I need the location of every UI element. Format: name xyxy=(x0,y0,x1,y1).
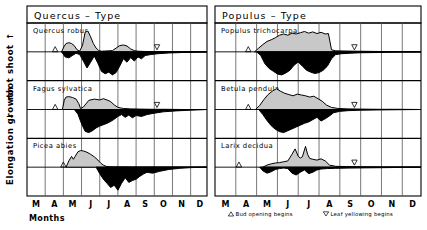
panel-populus-type: Populus – TypePopulus trichocarpaBetula … xyxy=(215,6,421,209)
leaf-yellowing-marker xyxy=(154,45,159,50)
species-plot: Quercus robur xyxy=(27,27,207,75)
species-plot: Picea abies xyxy=(27,142,207,190)
shoot-growth-area xyxy=(62,97,207,110)
species-name: Fagus sylvatica xyxy=(33,85,92,93)
month-tick-O: O xyxy=(368,200,375,209)
month-tick-A: A xyxy=(124,200,131,209)
month-tick-M: M xyxy=(68,200,76,209)
root-growth-area xyxy=(62,52,207,75)
month-tick-J: J xyxy=(306,200,310,209)
legend-bud-opening-label: Bud opening begins xyxy=(236,211,293,218)
month-tick-A: A xyxy=(326,200,333,209)
month-tick-D: D xyxy=(196,200,203,209)
month-tick-S: S xyxy=(142,200,148,209)
species-plot: Betula pendula xyxy=(215,85,421,133)
bud-opening-marker xyxy=(236,162,241,167)
panel-quercus-type: Quercus – TypeQuercus roburFagus sylvati… xyxy=(27,6,207,209)
leaf-yellowing-marker xyxy=(352,102,357,107)
bud-opening-marker xyxy=(52,104,57,109)
bud-opening-marker xyxy=(52,47,57,52)
figure-root: Quercus – TypeQuercus roburFagus sylvati… xyxy=(0,0,427,230)
figure-canvas: Quercus – TypeQuercus roburFagus sylvati… xyxy=(0,0,427,230)
bud-opening-marker xyxy=(246,104,251,109)
month-tick-M: M xyxy=(32,200,40,209)
legend-leaf-yellowing-label: Leaf yellowing begins xyxy=(331,211,393,218)
month-tick-M: M xyxy=(221,200,229,209)
y-axis-sublabel: root shoot xyxy=(5,44,15,100)
shoot-direction-arrow: ↑ xyxy=(5,32,15,40)
month-tick-M: M xyxy=(263,200,271,209)
legend-bud-opening-icon xyxy=(228,212,233,216)
species-name: Populus trichocarpa xyxy=(221,27,298,35)
shoot-growth-area xyxy=(66,151,207,168)
month-tick-J: J xyxy=(106,200,110,209)
month-tick-J: J xyxy=(88,200,92,209)
month-tick-N: N xyxy=(389,200,396,209)
root-growth-area xyxy=(260,167,421,175)
species-name: Betula pendula xyxy=(221,85,280,93)
month-tick-N: N xyxy=(178,200,185,209)
shoot-growth-area xyxy=(256,89,421,110)
root-direction-arrow: ↓ xyxy=(5,112,15,120)
species-name: Quercus robur xyxy=(33,27,88,35)
species-plot: Larix decidua xyxy=(215,142,421,175)
leaf-yellowing-marker xyxy=(352,45,357,50)
root-growth-area xyxy=(74,110,207,133)
shoot-growth-area xyxy=(263,146,421,167)
bud-opening-marker xyxy=(246,47,251,52)
species-plot: Fagus sylvatica xyxy=(27,85,207,133)
species-name: Picea abies xyxy=(33,142,77,150)
panel-title: Quercus – Type xyxy=(34,10,121,21)
month-tick-D: D xyxy=(409,200,416,209)
month-tick-J: J xyxy=(285,200,289,209)
month-tick-A: A xyxy=(243,200,250,209)
legend-leaf-yellowing-icon xyxy=(323,212,328,216)
root-growth-area xyxy=(257,52,421,75)
y-axis-label: Elongation growth xyxy=(5,86,15,185)
x-axis-label: Months xyxy=(29,214,65,223)
leaf-yellowing-marker xyxy=(352,160,357,165)
month-tick-S: S xyxy=(347,200,353,209)
panel-title: Populus – Type xyxy=(222,10,307,21)
species-plot: Populus trichocarpa xyxy=(215,27,421,75)
species-name: Larix decidua xyxy=(221,142,273,150)
month-tick-A: A xyxy=(51,200,58,209)
month-tick-O: O xyxy=(160,200,167,209)
leaf-yellowing-marker xyxy=(154,102,159,107)
